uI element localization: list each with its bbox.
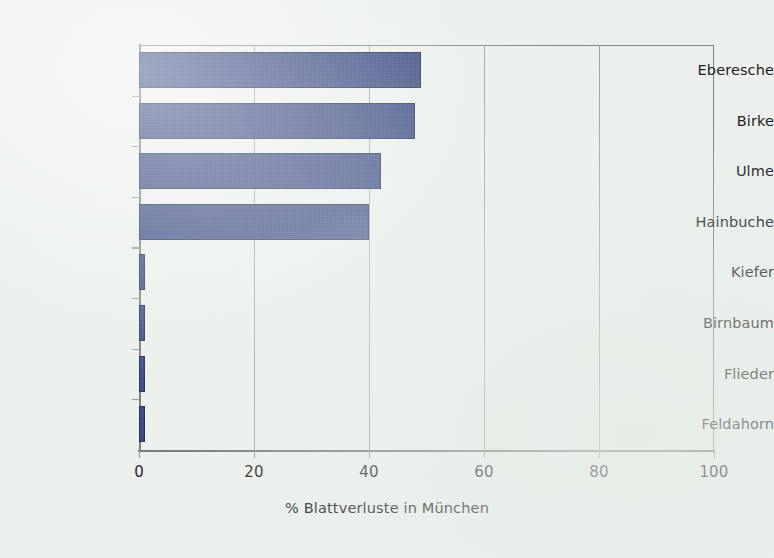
category-label-hainbuche: Hainbuche xyxy=(646,214,774,230)
x-axis-line xyxy=(138,450,715,452)
x-tick-mark-100 xyxy=(714,450,715,458)
category-label-kiefer: Kiefer xyxy=(646,264,774,280)
category-label-eberesche: Eberesche xyxy=(646,62,774,78)
bar-chart-figure: Eberesche Birke Ulme Hainbuche Kiefer Bi… xyxy=(0,0,774,558)
x-tick-mark-60 xyxy=(484,450,485,458)
category-label-birnbaum: Birnbaum xyxy=(646,315,774,331)
x-tick-label-100: 100 xyxy=(684,463,744,481)
bar-hainbuche[interactable] xyxy=(139,204,369,240)
x-tick-mark-80 xyxy=(599,450,600,458)
category-tick-birnbaum xyxy=(132,349,140,350)
x-axis-title: % Blattverluste in München xyxy=(0,500,774,516)
x-tick-label-20: 20 xyxy=(224,463,284,481)
x-tick-label-40: 40 xyxy=(339,463,399,481)
x-tick-mark-40 xyxy=(369,450,370,458)
category-tick-flieder xyxy=(132,399,140,400)
category-label-ulme: Ulme xyxy=(646,163,774,179)
category-tick-ulme xyxy=(132,197,140,198)
bar-birnbaum[interactable] xyxy=(139,305,145,341)
x-tick-label-80: 80 xyxy=(569,463,629,481)
category-tick-hainbuche xyxy=(132,247,140,248)
x-tick-label-0: 0 xyxy=(109,463,169,481)
bar-kiefer[interactable] xyxy=(139,254,145,290)
category-label-birke: Birke xyxy=(646,113,774,129)
bar-flieder[interactable] xyxy=(139,356,145,392)
category-tick-kiefer xyxy=(132,298,140,299)
bar-eberesche[interactable] xyxy=(139,52,421,88)
x-tick-mark-20 xyxy=(254,450,255,458)
category-label-feldahorn: Feldahorn xyxy=(646,416,774,432)
x-tick-mark-0 xyxy=(139,450,140,458)
bar-feldahorn[interactable] xyxy=(139,406,145,442)
category-tick-eberesche xyxy=(132,96,140,97)
bar-birke[interactable] xyxy=(139,103,415,139)
category-tick-birke xyxy=(132,146,140,147)
x-tick-label-60: 60 xyxy=(454,463,514,481)
bar-ulme[interactable] xyxy=(139,153,381,189)
category-label-flieder: Flieder xyxy=(646,366,774,382)
